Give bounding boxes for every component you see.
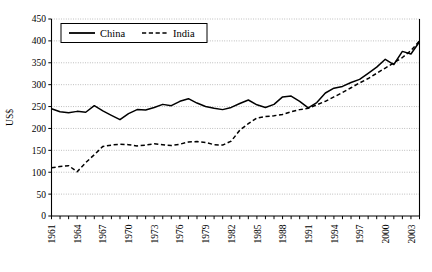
y-tick-label: 300 <box>32 80 47 90</box>
x-tick-label: 1982 <box>227 224 237 243</box>
x-tick-label: 1997 <box>355 224 365 243</box>
x-tick-label: 1961 <box>47 224 57 243</box>
x-tick-label: 1994 <box>330 224 340 243</box>
y-tick-label: 150 <box>32 146 47 156</box>
x-tick-label: 2003 <box>407 224 417 243</box>
x-tick-label: 1979 <box>201 224 211 243</box>
x-tick-label: 1970 <box>124 224 134 243</box>
y-tick-label: 250 <box>32 102 47 112</box>
legend-label-china: China <box>100 28 125 39</box>
x-tick-label: 1988 <box>278 224 288 243</box>
x-tick-label: 1967 <box>98 224 108 243</box>
axes <box>52 19 420 216</box>
y-tick-label: 350 <box>32 58 47 68</box>
y-tick-label: 400 <box>32 36 47 46</box>
x-axis-ticks: 1961196419671970197319761979198219851988… <box>47 216 419 244</box>
line-chart: 0501001502002503003504004501961196419671… <box>0 0 432 272</box>
y-tick-label: 50 <box>37 190 47 200</box>
gridlines <box>52 19 420 194</box>
x-tick-label: 1976 <box>175 224 185 243</box>
x-tick-label: 1964 <box>73 224 83 243</box>
y-tick-label: 200 <box>32 124 47 134</box>
y-tick-label: 100 <box>32 168 47 178</box>
legend: ChinaIndia <box>61 24 207 43</box>
x-tick-label: 1985 <box>253 224 263 243</box>
x-tick-label: 1973 <box>150 224 160 243</box>
y-axis-ticks: 050100150200250300350400450 <box>32 14 52 221</box>
legend-label-india: India <box>173 28 195 39</box>
x-tick-label: 2000 <box>381 224 391 243</box>
x-tick-label: 1991 <box>304 224 314 243</box>
y-tick-label: 0 <box>41 211 46 221</box>
chart-container: 0501001502002503003504004501961196419671… <box>0 0 432 272</box>
y-tick-label: 450 <box>32 14 47 24</box>
series-line-china <box>52 42 420 120</box>
y-axis-title: US$ <box>5 109 15 126</box>
